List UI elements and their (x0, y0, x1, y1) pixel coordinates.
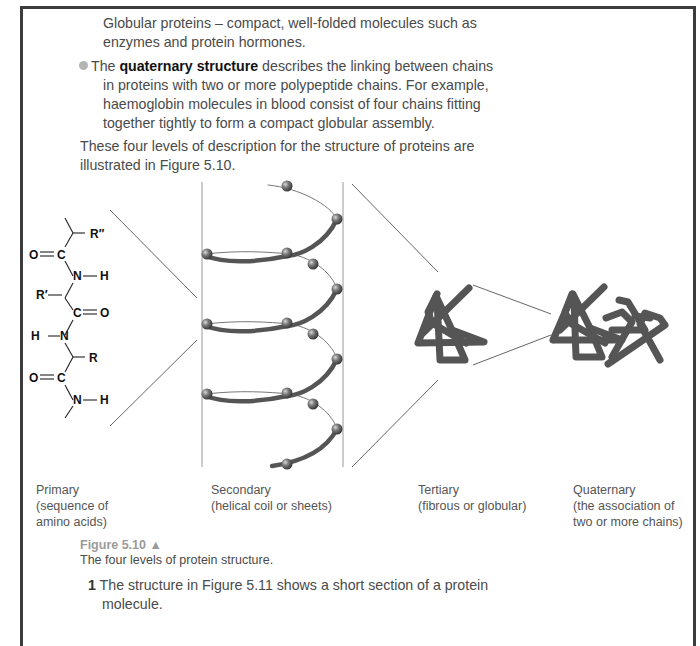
svg-text:R: R (89, 351, 98, 365)
primary-atom-labels: R′′ O C N H R′ C O H N R O C N H (29, 227, 109, 407)
svg-text:H: H (100, 393, 109, 407)
svg-text:C: C (57, 371, 66, 385)
primary-desc-2: amino acids) (36, 514, 108, 530)
quaternary-desc-1: (the association of (573, 498, 683, 514)
tertiary-structure (418, 288, 484, 360)
quaternary-structure (553, 287, 665, 364)
quaternary-title: Quaternary (573, 482, 683, 498)
figure-caption: The four levels of protein structure. (80, 553, 273, 567)
question-number: 1 (88, 577, 96, 593)
tertiary-desc-1: (fibrous or globular) (418, 498, 526, 514)
svg-text:R′: R′ (36, 288, 48, 302)
svg-text:N: N (73, 393, 82, 407)
question-1: 1 The structure in Figure 5.11 shows a s… (88, 576, 488, 614)
tertiary-to-quaternary-connector (473, 285, 551, 365)
primary-to-secondary-connector (110, 210, 197, 426)
alpha-helix (202, 181, 343, 470)
svg-text:N: N (60, 329, 69, 343)
label-secondary: Secondary (helical coil or sheets) (211, 482, 332, 514)
question-line-2: molecule. (88, 595, 488, 614)
tertiary-title: Tertiary (418, 482, 526, 498)
quaternary-desc-2: two or more chains) (573, 514, 683, 530)
label-quaternary: Quaternary (the association of two or mo… (573, 482, 683, 530)
svg-text:C: C (73, 306, 82, 320)
svg-text:C: C (57, 248, 66, 262)
svg-text:N: N (73, 269, 82, 283)
secondary-desc-1: (helical coil or sheets) (211, 498, 332, 514)
svg-text:O: O (29, 248, 38, 262)
primary-title: Primary (36, 482, 108, 498)
figure-number: Figure 5.10 ▲ (80, 538, 162, 552)
label-primary: Primary (sequence of amino acids) (36, 482, 108, 530)
label-tertiary: Tertiary (fibrous or globular) (418, 482, 526, 514)
secondary-title: Secondary (211, 482, 332, 498)
question-line-1: The structure in Figure 5.11 shows a sho… (96, 577, 488, 593)
svg-text:O: O (29, 371, 38, 385)
secondary-bounds (202, 182, 343, 467)
svg-text:H: H (31, 329, 40, 343)
svg-text:O: O (100, 306, 109, 320)
svg-text:R′′: R′′ (90, 227, 105, 241)
primary-structure-diagram (40, 218, 97, 418)
primary-desc-1: (sequence of (36, 498, 108, 514)
svg-text:H: H (100, 269, 109, 283)
